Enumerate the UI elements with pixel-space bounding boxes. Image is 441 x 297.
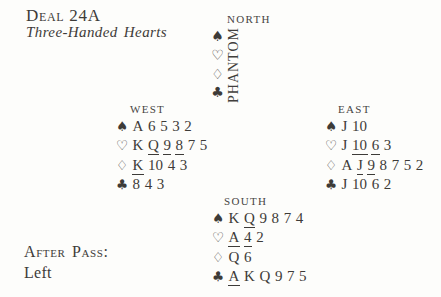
card-8: 8 (271, 210, 280, 227)
west-club-row: ♣843 (116, 175, 211, 194)
west-heart-row: ♡KQ9875 (116, 136, 211, 155)
card-Q: Q (259, 268, 271, 285)
diamond-icon: ♢ (211, 65, 224, 84)
diamond-icon: ♢ (116, 157, 128, 173)
after-pass-label: After Pass: (24, 243, 109, 261)
heart-icon: ♡ (211, 46, 224, 65)
card-4: 4 (295, 210, 304, 227)
east-diamond-row: ♢AJ98752 (325, 156, 427, 175)
card-6: 6 (148, 118, 157, 135)
spade-icon: ♠ (325, 118, 337, 134)
card-9: 9 (274, 268, 283, 285)
card-A: A (228, 229, 240, 247)
east-seat-label: East (338, 103, 427, 115)
card-4: 4 (244, 229, 253, 247)
card-9: 9 (163, 137, 172, 155)
card-Q: Q (228, 249, 240, 266)
card-7: 7 (391, 157, 400, 174)
card-10: 10 (352, 176, 368, 193)
card-10: 10 (352, 137, 368, 155)
phantom-vertical-label: PHANTOM (226, 27, 243, 103)
heart-icon: ♡ (325, 137, 337, 153)
club-icon: ♣ (116, 176, 128, 192)
card-K: K (132, 157, 144, 175)
card-2: 2 (256, 229, 265, 246)
club-icon: ♣ (212, 268, 224, 284)
card-K: K (244, 268, 256, 285)
card-3: 3 (172, 118, 181, 135)
west-hand: West ♠A6532♡KQ9875♢K1043♣843 (116, 103, 211, 194)
card-A: A (341, 157, 353, 174)
phantom-text: PHANTOM (226, 27, 242, 103)
card-8: 8 (379, 157, 388, 174)
card-A: A (132, 118, 144, 135)
east-spade-row: ♠J10 (325, 117, 427, 136)
card-K: K (132, 137, 144, 154)
card-3: 3 (156, 176, 165, 193)
after-pass-block: After Pass: Left (24, 243, 109, 282)
card-7: 7 (187, 137, 196, 154)
west-diamond-row: ♢K1043 (116, 156, 211, 175)
spade-icon: ♠ (211, 27, 224, 46)
south-heart-row: ♡A42 (212, 228, 311, 247)
club-icon: ♣ (211, 83, 224, 102)
card-2: 2 (383, 176, 392, 193)
west-spade-row: ♠A6532 (116, 117, 211, 136)
deal-subtitle: Three-Handed Hearts (26, 24, 167, 41)
south-card-rows: ♠KQ9874♡A42♢Q6♣AKQ975 (212, 209, 311, 286)
card-6: 6 (371, 137, 380, 155)
card-4: 4 (167, 157, 176, 174)
card-J: J (357, 157, 364, 175)
diamond-icon: ♢ (325, 157, 337, 173)
card-4: 4 (144, 176, 153, 193)
card-6: 6 (371, 176, 380, 193)
card-7: 7 (283, 210, 292, 227)
card-9: 9 (367, 157, 376, 175)
north-suit-column: ♠♡♢♣ (211, 27, 224, 102)
card-J: J (341, 118, 348, 135)
card-J: J (341, 137, 348, 154)
card-J: J (341, 176, 348, 193)
card-10: 10 (148, 157, 164, 174)
spade-icon: ♠ (212, 210, 224, 226)
diamond-icon: ♢ (212, 249, 224, 265)
heart-icon: ♡ (212, 229, 224, 245)
card-A: A (228, 268, 240, 286)
card-9: 9 (259, 210, 268, 227)
spade-icon: ♠ (116, 118, 128, 134)
south-spade-row: ♠KQ9874 (212, 209, 311, 228)
east-club-row: ♣J1062 (325, 175, 427, 194)
bridge-deal-page: Deal 24A Three-Handed Hearts North ♠♡♢♣ … (0, 0, 441, 297)
north-seat-label: North (227, 13, 271, 25)
east-hand: East ♠J10♡J1063♢AJ98752♣J1062 (325, 103, 427, 194)
card-10: 10 (352, 118, 368, 135)
card-Q: Q (244, 210, 256, 228)
card-5: 5 (160, 118, 169, 135)
east-heart-row: ♡J1063 (325, 136, 427, 155)
card-5: 5 (403, 157, 412, 174)
card-3: 3 (179, 157, 188, 174)
south-diamond-row: ♢Q6 (212, 248, 311, 267)
card-2: 2 (184, 118, 193, 135)
deal-title: Deal 24A (26, 6, 101, 26)
card-2: 2 (415, 157, 424, 174)
card-5: 5 (299, 268, 308, 285)
card-8: 8 (175, 137, 184, 155)
heart-icon: ♡ (116, 137, 128, 153)
club-icon: ♣ (325, 176, 337, 192)
after-pass-value: Left (24, 264, 109, 282)
west-seat-label: West (130, 103, 211, 115)
south-club-row: ♣AKQ975 (212, 267, 311, 286)
west-card-rows: ♠A6532♡KQ9875♢K1043♣843 (116, 117, 211, 194)
card-6: 6 (244, 249, 253, 266)
card-5: 5 (199, 137, 208, 154)
card-7: 7 (287, 268, 296, 285)
card-8: 8 (132, 176, 141, 193)
south-hand: South ♠KQ9874♡A42♢Q6♣AKQ975 (212, 195, 311, 286)
card-K: K (228, 210, 240, 227)
card-3: 3 (383, 137, 392, 154)
east-card-rows: ♠J10♡J1063♢AJ98752♣J1062 (325, 117, 427, 194)
card-Q: Q (148, 137, 160, 155)
south-seat-label: South (224, 195, 311, 207)
